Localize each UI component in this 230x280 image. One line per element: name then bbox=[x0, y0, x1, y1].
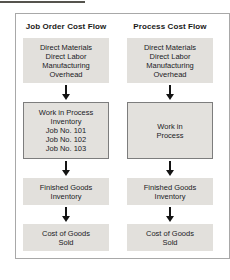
box-work-in-process: Work in Process bbox=[127, 102, 213, 159]
column-job-order-cost-flow: Job Order Cost Flow Direct Materials Dir… bbox=[23, 14, 109, 258]
box-line: Inventory bbox=[24, 117, 108, 126]
arrow-head bbox=[62, 216, 70, 222]
down-arrow-icon bbox=[23, 159, 109, 178]
box-finished-goods-inventory-job-order: Finished Goods Inventory bbox=[23, 178, 109, 205]
box-cost-of-goods-sold-process: Cost of Goods Sold bbox=[127, 224, 213, 251]
box-line: Job No. 103 bbox=[24, 144, 108, 153]
arrow-head bbox=[62, 94, 70, 100]
down-arrow-icon bbox=[127, 205, 213, 224]
column-process-cost-flow: Process Cost Flow Direct Materials Direc… bbox=[127, 14, 213, 258]
box-manufacturing-costs-job-order: Direct Materials Direct Labor Manufactur… bbox=[23, 38, 109, 83]
arrow-head bbox=[166, 170, 174, 176]
box-work-in-process-inventory-jobs: Work in Process Inventory Job No. 101 Jo… bbox=[23, 102, 109, 159]
box-manufacturing-costs-process: Direct Materials Direct Labor Manufactur… bbox=[127, 38, 213, 83]
box-line: Inventory bbox=[23, 192, 109, 201]
box-line: Process bbox=[128, 131, 212, 140]
arrow-head bbox=[166, 216, 174, 222]
box-line: Overhead bbox=[127, 70, 213, 79]
box-line: Cost of Goods bbox=[23, 229, 109, 238]
down-arrow-icon bbox=[23, 83, 109, 102]
arrow-stem bbox=[65, 207, 67, 216]
arrow-stem bbox=[169, 85, 171, 94]
arrow-stem bbox=[65, 161, 67, 170]
box-finished-goods-inventory-process: Finished Goods Inventory bbox=[127, 178, 213, 205]
box-line: Overhead bbox=[23, 70, 109, 79]
down-arrow-icon bbox=[23, 205, 109, 224]
column-header-job-order: Job Order Cost Flow bbox=[23, 14, 109, 38]
box-line: Finished Goods bbox=[23, 183, 109, 192]
box-line: Job No. 102 bbox=[24, 135, 108, 144]
arrow-head bbox=[166, 94, 174, 100]
box-line: Sold bbox=[23, 238, 109, 247]
diagram-frame: Job Order Cost Flow Direct Materials Dir… bbox=[15, 13, 230, 259]
box-line: Direct Materials bbox=[127, 43, 213, 52]
box-line: Direct Materials bbox=[23, 43, 109, 52]
page-top-rule bbox=[0, 1, 85, 3]
arrow-stem bbox=[65, 85, 67, 94]
box-line: Finished Goods bbox=[127, 183, 213, 192]
box-line: Work in Process bbox=[24, 108, 108, 117]
column-header-process: Process Cost Flow bbox=[127, 14, 213, 38]
box-line: Job No. 101 bbox=[24, 126, 108, 135]
box-line: Manufacturing bbox=[127, 61, 213, 70]
box-line: Work in bbox=[128, 122, 212, 131]
arrow-stem bbox=[169, 207, 171, 216]
box-line: Direct Labor bbox=[127, 52, 213, 61]
arrow-stem bbox=[169, 161, 171, 170]
box-cost-of-goods-sold-job-order: Cost of Goods Sold bbox=[23, 224, 109, 251]
down-arrow-icon bbox=[127, 159, 213, 178]
box-line: Cost of Goods bbox=[127, 229, 213, 238]
box-line: Inventory bbox=[127, 192, 213, 201]
box-line: Manufacturing bbox=[23, 61, 109, 70]
box-line: Direct Labor bbox=[23, 52, 109, 61]
arrow-head bbox=[62, 170, 70, 176]
down-arrow-icon bbox=[127, 83, 213, 102]
box-line: Sold bbox=[127, 238, 213, 247]
